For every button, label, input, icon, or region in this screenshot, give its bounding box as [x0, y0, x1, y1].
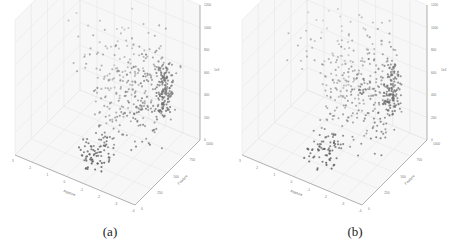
scatter-point [103, 105, 105, 107]
scatter-point [127, 66, 129, 68]
scatter-point [125, 91, 127, 93]
scatter-point [126, 115, 128, 117]
scatter-point [385, 122, 387, 124]
scatter-point [346, 95, 348, 97]
scatter-point [326, 95, 328, 97]
scatter-point [393, 89, 395, 91]
scatter-point [341, 25, 343, 27]
scatter-point [396, 89, 398, 91]
scatter-point [105, 116, 107, 118]
scatter-point [361, 16, 363, 18]
scatter-point [391, 60, 393, 62]
scatter-point [97, 163, 99, 165]
scatter-point [335, 74, 337, 76]
scatter-point [110, 46, 112, 48]
scatter-point [150, 107, 152, 109]
scatter-point [127, 27, 129, 29]
scatter-point [342, 135, 344, 137]
x-tick-label: -3 [341, 202, 344, 206]
scatter-point [146, 73, 148, 75]
scatter-point [357, 94, 359, 96]
scatter-point [165, 90, 167, 92]
scatter-point [328, 158, 330, 160]
scatter-point [334, 134, 336, 136]
scatter-point [394, 64, 396, 66]
scatter-point [323, 148, 325, 150]
scatter-point [326, 154, 328, 156]
scatter-point [78, 146, 80, 148]
scatter-point [380, 40, 382, 42]
scatter-point [106, 140, 108, 142]
scatter-point [329, 150, 331, 152]
scatter-point [391, 114, 393, 116]
scatter-point [400, 75, 402, 77]
y-tick-label: 750 [417, 158, 423, 162]
x-tick-label: 0 [64, 180, 66, 184]
scatter-point [129, 58, 131, 60]
scatter-point [113, 128, 115, 130]
scatter-point [169, 111, 171, 113]
scatter-point [364, 118, 366, 120]
scatter-point [343, 72, 345, 74]
scatter-point [309, 152, 311, 154]
scatter-point [384, 136, 386, 138]
scatter-point [143, 70, 145, 72]
scatter-point [150, 101, 152, 103]
scatter-point [388, 41, 390, 43]
scatter-point [127, 107, 129, 109]
scatter-point [109, 119, 111, 121]
scatter-point [105, 143, 107, 145]
scatter-point [154, 131, 156, 133]
scatter-point [327, 135, 329, 137]
scatter-point [390, 64, 392, 66]
scatter-point [334, 99, 336, 101]
scatter-point [111, 121, 113, 123]
z-tick-label: 0 [431, 138, 433, 142]
scatter-point [135, 65, 137, 67]
scatter-point [375, 64, 377, 66]
scatter-point [382, 77, 384, 79]
y-tick-label: 1000 [206, 142, 213, 146]
scatter-point [101, 162, 103, 164]
scatter-point [330, 73, 332, 75]
scatter-point [161, 96, 163, 98]
scatter-point [321, 31, 323, 33]
subplot-b: -4-3-2-101230250500750100002004006008001… [227, 0, 454, 247]
scatter-point [137, 99, 139, 101]
scatter-point [387, 113, 389, 115]
scatter-point [342, 113, 344, 115]
scatter-point [332, 118, 334, 120]
x-tick-label: -4 [132, 209, 135, 213]
scatter-point [114, 54, 116, 56]
scatter-point [145, 75, 147, 77]
scatter-point [362, 91, 364, 93]
scatter-point [373, 88, 375, 90]
scatter-point [126, 81, 128, 83]
scatter-point [383, 101, 385, 103]
scatter-point [369, 63, 371, 65]
scatter-point [152, 88, 154, 90]
scatter-point [340, 95, 342, 97]
scatter-point [116, 28, 118, 30]
scatter-point [104, 132, 106, 134]
scatter-point [119, 97, 121, 99]
scatter-point [139, 104, 141, 106]
scatter-point [142, 23, 144, 25]
scatter-point [122, 113, 124, 115]
scatter-point [121, 26, 123, 28]
scatter-point [118, 131, 120, 133]
scatter-point [363, 82, 365, 84]
scatter-point [307, 11, 309, 13]
z-tick-label: 200 [204, 116, 210, 120]
scatter-point [154, 88, 156, 90]
scatter-point [152, 56, 154, 58]
scatter-point [151, 111, 153, 113]
scatter-point [373, 58, 375, 60]
scatter-point [133, 66, 135, 68]
scatter-point [157, 105, 159, 107]
scatter-point [367, 112, 369, 114]
scatter-point [348, 68, 350, 70]
scatter-point [366, 130, 368, 132]
scatter-point [380, 121, 382, 123]
scatter-point [160, 93, 162, 95]
